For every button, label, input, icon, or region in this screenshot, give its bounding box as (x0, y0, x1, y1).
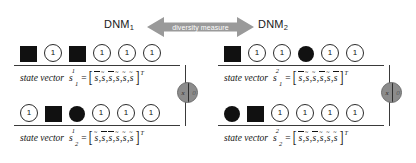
figure-canvas: DNM1 diversity measure DNM2 1111 state v… (0, 0, 416, 163)
symbol-superscript: 2 (276, 67, 279, 74)
caption-vector: [ ~s,s,s,~s,~s,~s ] T (88, 130, 144, 146)
caption-text: state vector (20, 133, 64, 143)
dnm2-group: 1111 state vector s21 = [ s,~s,~s,s,~s,s… (218, 44, 408, 160)
caption-equals: = (285, 73, 290, 83)
vector-component: s (101, 133, 106, 143)
caption-text: state vector (224, 133, 268, 143)
vector-component: s (298, 133, 303, 143)
dnm2-merge-node: x 0 (381, 82, 402, 103)
bracket-close-icon: ] (136, 70, 140, 86)
dnm2-row-2: 1111 (224, 104, 388, 126)
tilde-accent-icon: ~ (94, 129, 97, 135)
vector-component-base: s (298, 133, 302, 143)
caption-symbol: s11 (69, 71, 79, 85)
dnm2-row-1: 1111 (224, 44, 388, 66)
dnm1-merge-node: x 0 (177, 82, 198, 103)
vector-component: ~s (129, 73, 134, 83)
dnm1-row-2-cells: 1111 (20, 104, 160, 122)
cell-ring: 1 (321, 44, 339, 62)
cell-ring: 1 (296, 104, 314, 122)
dnm1-row-1-caption: state vector s11 = [ s,~s,s,~s,~s,~s ] T (20, 70, 144, 86)
cell-ring: 1 (93, 44, 111, 62)
tilde-accent-icon: ~ (129, 69, 132, 75)
cell-ring: 1 (271, 104, 289, 122)
tilde-accent-icon: ~ (122, 69, 125, 75)
overbar-accent-icon (312, 131, 318, 132)
vector-component: ~s (101, 73, 106, 83)
vector-component: ~s (122, 133, 127, 143)
caption-symbol: s21 (273, 71, 283, 85)
vector-component: ~s (319, 133, 324, 143)
symbol-subscript: 2 (75, 140, 78, 147)
dnm2-row-2-caption: state vector s22 = [ s,~s,s,~s,~s,~s ] T (224, 130, 348, 146)
vector-component: ~s (312, 73, 317, 83)
cell-disc (69, 106, 85, 122)
vector-component: ~s (115, 133, 120, 143)
merge-node-left-value: x (382, 83, 392, 103)
overbar-accent-icon (101, 131, 107, 132)
vector-component-base: s (94, 73, 98, 83)
overbar-accent-icon (298, 131, 304, 132)
caption-vector: [ s,~s,~s,s,~s,s ] T (292, 70, 348, 86)
bracket-open-icon: [ (88, 130, 92, 146)
tilde-accent-icon: ~ (333, 129, 336, 135)
vector-component: ~s (326, 133, 331, 143)
cell-ring: 1 (142, 104, 160, 122)
symbol-base: s (69, 73, 73, 83)
bracket-open-icon: [ (292, 130, 296, 146)
symbol-base: s (69, 133, 73, 143)
cell-square (45, 106, 62, 122)
cell-disc (298, 46, 314, 62)
caption-vector: [ s,~s,s,~s,~s,~s ] T (292, 130, 348, 146)
overbar-accent-icon (108, 71, 114, 72)
vector-component-base: s (298, 73, 302, 83)
tilde-accent-icon: ~ (129, 129, 132, 135)
tilde-accent-icon: ~ (326, 129, 329, 135)
cell-ring: 1 (44, 44, 62, 62)
vector-component: ~s (305, 73, 310, 83)
overbar-accent-icon (108, 131, 114, 132)
overbar-accent-icon (298, 71, 304, 72)
tilde-accent-icon: ~ (101, 69, 104, 75)
symbol-base: s (273, 73, 277, 83)
vector-component: s (108, 73, 113, 83)
dnm1-row-1: 1111 (20, 44, 184, 66)
transpose-marker: T (344, 130, 347, 136)
tilde-accent-icon: ~ (115, 129, 118, 135)
bracket-close-icon: ] (136, 130, 140, 146)
dnm2-row-1-cells: 1111 (224, 44, 364, 62)
cell-square (247, 106, 264, 122)
vector-component: ~s (333, 133, 338, 143)
dnm1-group: 1111 state vector s11 = [ s,~s,s,~s,~s,~… (14, 44, 204, 160)
merge-node-right-value: 0 (393, 83, 402, 103)
symbol-subscript: 1 (279, 80, 282, 87)
tilde-accent-icon: ~ (326, 69, 329, 75)
vector-component-base: s (334, 73, 338, 83)
overbar-accent-icon (94, 71, 100, 72)
cell-ring: 1 (118, 44, 136, 62)
tilde-accent-icon: ~ (312, 69, 315, 75)
vector-component: s (108, 133, 113, 143)
caption-text: state vector (20, 73, 64, 83)
dnm1-row-1-rule (14, 65, 180, 66)
merge-node-circle: x 0 (381, 82, 402, 103)
cell-square (69, 46, 86, 62)
dnm1-row-2-rule (14, 125, 180, 126)
cell-ring: 1 (346, 104, 364, 122)
vector-component: s (94, 73, 99, 83)
dnm1-row-2-caption: state vector s12 = [ ~s,s,s,~s,~s,~s ] T (20, 130, 144, 146)
dnm2-label-subscript: 2 (284, 23, 288, 32)
vector-component: ~s (129, 133, 134, 143)
symbol-base: s (273, 133, 277, 143)
vector-component: s (312, 133, 317, 143)
dnm2-row-1-rule (218, 65, 384, 66)
symbol-superscript: 2 (276, 127, 279, 134)
bracket-close-icon: ] (340, 70, 344, 86)
dnm2-row-2-rule (218, 125, 384, 126)
dnm1-label: DNM1 (104, 18, 134, 30)
symbol-subscript: 2 (279, 140, 282, 147)
dnm1-row-1-cells: 1111 (20, 44, 161, 62)
symbol-subscript: 1 (75, 80, 78, 87)
caption-equals: = (81, 133, 86, 143)
vector-component: ~s (94, 133, 99, 143)
